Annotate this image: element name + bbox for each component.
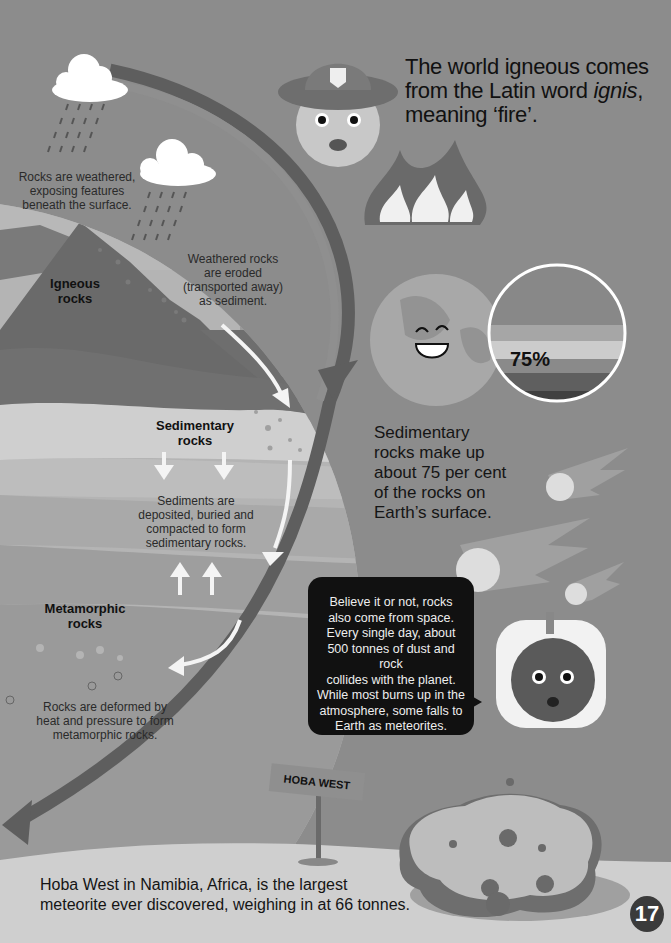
meteor-icon bbox=[565, 562, 624, 605]
signpost-icon bbox=[316, 790, 321, 862]
deformed-caption: Rocks are deformed byheat and pressure t… bbox=[30, 700, 180, 742]
page-number: 17 bbox=[630, 896, 664, 932]
sedimentary-rocks-label: Sedimentaryrocks bbox=[145, 418, 245, 448]
speech-bubble-tail bbox=[468, 694, 482, 710]
space-rocks-speech-bubble: Believe it or not, rocksalso come from s… bbox=[308, 577, 474, 735]
astronaut-rock-character-icon bbox=[496, 612, 606, 728]
meteor-icon bbox=[456, 518, 590, 592]
sedimentary-percent-fact: Sedimentaryrocks make upabout 75 per cen… bbox=[374, 423, 534, 523]
eroded-caption: Weathered rocksare eroded(transported aw… bbox=[172, 252, 294, 308]
meteor-icon bbox=[546, 448, 628, 501]
hoba-west-fact: Hoba West in Namibia, Africa, is the lar… bbox=[40, 875, 460, 915]
igneous-origin-fact: The world igneous comes from the Latin w… bbox=[405, 55, 670, 127]
rock-cycle-illustration bbox=[0, 0, 671, 943]
weathered-caption: Rocks are weathered,exposing featuresben… bbox=[2, 170, 152, 212]
deposited-caption: Sediments aredeposited, buried andcompac… bbox=[136, 494, 256, 550]
percent-value: 75% bbox=[510, 348, 550, 371]
metamorphic-rocks-label: Metamorphicrocks bbox=[35, 601, 135, 631]
fire-icon bbox=[364, 140, 486, 225]
firefighter-rock-character-icon bbox=[278, 64, 398, 167]
igneous-rocks-label: Igneousrocks bbox=[40, 276, 110, 306]
book-page: Rocks are weathered,exposing featuresben… bbox=[0, 0, 671, 943]
rock-layers-circle bbox=[489, 265, 625, 411]
earth-character-icon bbox=[370, 274, 502, 406]
